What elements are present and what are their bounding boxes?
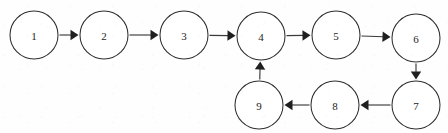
node-5[interactable]: 5 bbox=[312, 11, 360, 59]
node-label-3: 3 bbox=[181, 30, 187, 42]
node-label-7: 7 bbox=[413, 100, 419, 112]
edge-6-to-7 bbox=[411, 64, 421, 80]
diagram-canvas: 123456789 bbox=[0, 0, 448, 133]
node-2[interactable]: 2 bbox=[80, 11, 128, 59]
node-label-8: 8 bbox=[332, 100, 338, 112]
node-6[interactable]: 6 bbox=[392, 14, 440, 62]
edge-9-to-4 bbox=[255, 61, 265, 79]
node-1[interactable]: 1 bbox=[10, 11, 58, 59]
node-label-6: 6 bbox=[413, 33, 419, 45]
node-label-1: 1 bbox=[31, 30, 37, 42]
node-8[interactable]: 8 bbox=[311, 81, 359, 129]
edge-4-to-5 bbox=[286, 30, 310, 40]
edge-2-to-3 bbox=[130, 30, 159, 40]
node-label-9: 9 bbox=[256, 100, 262, 112]
node-7[interactable]: 7 bbox=[392, 81, 440, 129]
node-label-4: 4 bbox=[258, 31, 264, 43]
node-3[interactable]: 3 bbox=[160, 11, 208, 59]
node-9[interactable]: 9 bbox=[235, 81, 283, 129]
flow-diagram: 123456789 bbox=[0, 0, 448, 133]
edge-1-to-2 bbox=[60, 30, 79, 40]
edge-3-to-4 bbox=[209, 30, 235, 40]
edge-5-to-6 bbox=[361, 32, 390, 42]
edge-8-to-9 bbox=[285, 100, 310, 110]
node-label-2: 2 bbox=[101, 30, 107, 42]
node-label-5: 5 bbox=[333, 30, 339, 42]
edge-7-to-8 bbox=[361, 100, 391, 110]
node-4[interactable]: 4 bbox=[237, 12, 285, 60]
nodes-layer: 123456789 bbox=[10, 11, 440, 129]
